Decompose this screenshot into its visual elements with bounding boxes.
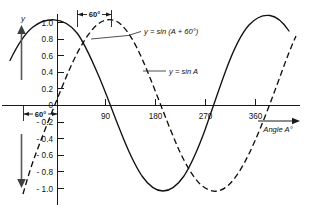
legend-callout-base: y = sin A [143, 67, 198, 76]
top-dim-arrowhead-left [78, 12, 84, 16]
y-direction-arrows: y [17, 14, 26, 188]
legend-label-shifted: y = sin (A + 60°) [143, 27, 199, 36]
y-tick-label-neg0.8: - 0.8 [37, 168, 54, 177]
x-axis-title-group: Angle A° [258, 118, 300, 134]
y-tick-label-0.4: 0.4 [42, 68, 54, 77]
top-dim-arrowhead-right [106, 12, 112, 16]
y-axis-arrow-label: y [20, 14, 26, 23]
legend-label-base: y = sin A [168, 67, 198, 76]
y-tick-label-0.2: 0.2 [42, 85, 54, 94]
x-axis-title-arrowhead [292, 118, 300, 124]
y-tick-label-neg0.4: - 0.4 [37, 135, 54, 144]
y-tick-label-neg0.6: - 0.6 [37, 151, 54, 160]
y-tick-label-0.6: 0.6 [42, 52, 54, 61]
left-dimension-label: 60° [35, 110, 46, 119]
x-axis-title: Angle A° [262, 125, 292, 134]
left-dim-arrowhead-right [52, 112, 58, 116]
x-tick-label-90: 90 [101, 112, 111, 121]
y-up-arrowhead [17, 25, 26, 34]
curve-sin-a [23, 20, 296, 194]
top-dimension-label: 60° [89, 10, 100, 19]
sine-graph-svg: 90 180 270 360 1.0 0.8 0.6 0.4 0.2 0 [0, 0, 309, 216]
legend-callout-shifted: y = sin (A + 60°) [91, 27, 199, 39]
legend-leader-shifted [91, 32, 141, 40]
top-dimension-60deg: 60° [78, 10, 112, 27]
chart-figure: 90 180 270 360 1.0 0.8 0.6 0.4 0.2 0 [0, 0, 309, 216]
x-tick-label-360: 360 [249, 112, 263, 121]
y-tick-label-neg0.2: - 0.2 [37, 118, 54, 127]
left-dim-arrowhead-left [24, 112, 30, 116]
y-down-arrowhead [17, 179, 26, 188]
y-tick-label-neg1.0: - 1.0 [37, 185, 54, 194]
x-tick-label-180: 180 [149, 112, 163, 121]
y-tick-label-0.8: 0.8 [42, 35, 54, 44]
